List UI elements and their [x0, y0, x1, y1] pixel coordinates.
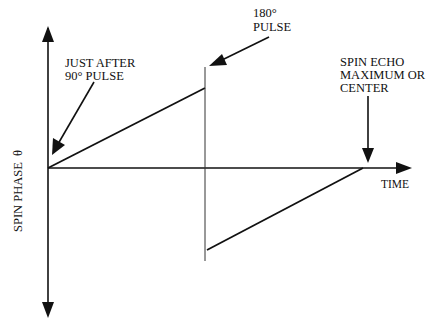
- x-axis-label: TIME: [381, 178, 409, 190]
- one-eighty-pulse-label-line2: PULSE: [253, 20, 292, 34]
- ninety-pulse-pointer-arrow: [58, 82, 94, 144]
- ninety-pulse-label-line1: JUST AFTER: [65, 56, 136, 70]
- one-eighty-pulse-pointer-arrowhead: [209, 54, 227, 66]
- y-axis-down-arrowhead: [42, 302, 54, 318]
- spin-echo-label-line2: MAXIMUM OR: [340, 68, 426, 82]
- y-axis-up-arrowhead: [42, 26, 54, 42]
- phase-line-rephasing: [207, 168, 363, 250]
- spin-echo-label-line3: CENTER: [340, 81, 389, 95]
- spin-echo-diagram: JUST AFTER 90° PULSE 180° PULSE SPIN ECH…: [0, 0, 440, 333]
- one-eighty-pulse-label-line1: 180°: [253, 6, 277, 20]
- phase-line-dephasing: [48, 88, 205, 168]
- x-axis-arrowhead: [396, 162, 412, 174]
- ninety-pulse-label-line2: 90° PULSE: [65, 69, 124, 83]
- one-eighty-pulse-pointer-arrow: [222, 37, 269, 60]
- spin-echo-label-line1: SPIN ECHO: [340, 55, 404, 69]
- spin-echo-pointer-arrowhead: [362, 148, 374, 163]
- ninety-pulse-pointer-arrowhead: [52, 138, 65, 155]
- y-axis-label: SPIN PHASE θ: [11, 150, 25, 232]
